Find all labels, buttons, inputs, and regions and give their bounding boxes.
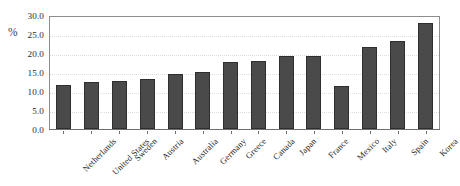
x-axis-tick	[231, 131, 232, 134]
y-axis-tick-label: 20.0	[28, 49, 44, 59]
x-axis-category-label: Spain	[409, 136, 430, 157]
x-axis-category-label: Italy	[380, 136, 399, 155]
x-axis-tick	[398, 131, 399, 134]
x-axis-tick	[426, 131, 427, 134]
y-axis-tick-labels: 0.05.010.015.020.025.030.0	[0, 0, 47, 186]
bar	[112, 81, 127, 129]
y-axis-tick-label: 30.0	[28, 11, 44, 21]
bar	[195, 72, 210, 129]
x-axis-category-label: France	[326, 136, 350, 160]
x-axis-tick	[119, 131, 120, 134]
x-axis-category-label: Mexico	[355, 136, 381, 162]
x-axis-tick	[203, 131, 204, 134]
x-axis-tick	[91, 131, 92, 134]
bar	[279, 56, 294, 129]
x-axis-category-labels: NetherlandsUnited StatesSwedenAustriaAus…	[49, 131, 440, 186]
x-axis-category-label: Australia	[189, 136, 219, 166]
x-axis-category-label: Canada	[271, 136, 297, 162]
x-axis-category-label: Korea	[437, 136, 459, 158]
x-axis-tick	[147, 131, 148, 134]
bar	[251, 61, 266, 129]
bar	[306, 56, 321, 129]
x-axis-tick	[370, 131, 371, 134]
bar	[390, 41, 405, 129]
y-axis-tick-label: 10.0	[28, 87, 44, 97]
x-axis-tick	[286, 131, 287, 134]
x-axis-category-label: Germany	[217, 136, 247, 166]
bar	[362, 47, 377, 129]
bar	[223, 62, 238, 129]
y-axis-tick-label: 15.0	[28, 68, 44, 78]
bar	[84, 82, 99, 130]
y-axis-tick-label: 5.0	[32, 106, 44, 116]
x-axis-tick	[63, 131, 64, 134]
x-axis-tick	[175, 131, 176, 134]
bar	[140, 79, 155, 129]
x-axis-category-label: Austria	[159, 136, 185, 162]
bar	[334, 86, 349, 129]
y-axis-tick-label: 25.0	[28, 30, 44, 40]
x-axis-tick	[342, 131, 343, 134]
x-axis-tick	[258, 131, 259, 134]
x-axis-category-label: Greece	[243, 136, 268, 161]
x-axis-category-label: Japan	[297, 136, 318, 157]
x-axis-line	[49, 129, 440, 130]
bar	[418, 23, 433, 129]
plot-area	[49, 16, 440, 130]
y-axis-tick-label: 0.0	[32, 125, 44, 135]
bars-group	[50, 17, 439, 129]
x-axis-tick	[314, 131, 315, 134]
bar	[168, 74, 183, 129]
bar	[56, 85, 71, 129]
